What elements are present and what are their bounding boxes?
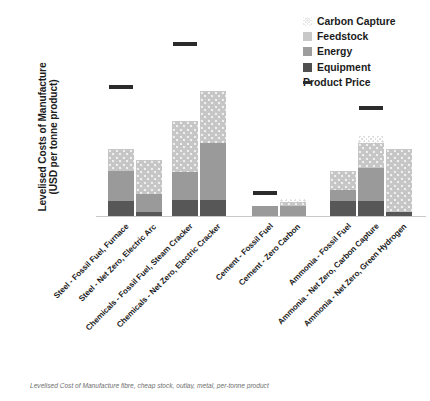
legend-label: Equipment <box>317 62 371 73</box>
bar-segment-feedstock <box>200 91 226 143</box>
bar-segment-energy <box>136 194 162 212</box>
y-axis-title-line-2: (USD per tonne product) <box>48 80 59 195</box>
legend-swatch-feedstock-icon <box>303 32 312 41</box>
bar-segment-equipment <box>358 201 384 216</box>
bar-segment-carbon-capture <box>358 136 384 142</box>
product-price-marker-steel <box>109 85 133 89</box>
bar-9[interactable] <box>386 149 412 216</box>
legend-label: Feedstock <box>317 31 368 42</box>
legend: Carbon CaptureFeedstockEnergyEquipmentPr… <box>303 14 429 90</box>
legend-item-capture[interactable]: Carbon Capture <box>303 14 429 29</box>
y-axis-title: Levelised Costs of Manufacture (USD per … <box>31 27 65 247</box>
bar-segment-energy <box>172 172 198 199</box>
bar-segment-equipment <box>172 200 198 216</box>
legend-label: Energy <box>317 46 352 57</box>
bar-segment-energy <box>358 168 384 201</box>
chart-container: Levelised Costs of Manufacture (USD per … <box>0 0 430 401</box>
product-price-marker-ammonia <box>359 106 383 110</box>
bar-segment-feedstock <box>330 171 356 190</box>
bar-segment-energy <box>200 143 226 200</box>
x-tick-label-9: Ammonia - Net Zero, Green Hydrogen <box>302 222 408 328</box>
bar-7[interactable] <box>330 171 356 216</box>
legend-item-price[interactable]: Product Price <box>303 75 429 90</box>
bar-segment-equipment <box>386 212 412 216</box>
legend-label: Carbon Capture <box>317 16 396 27</box>
bar-1[interactable] <box>108 149 134 216</box>
bar-segment-feedstock <box>108 149 134 171</box>
bar-6[interactable] <box>280 199 306 216</box>
x-axis-line <box>96 216 426 217</box>
legend-label: Product Price <box>303 77 371 88</box>
bar-segment-feedstock <box>358 143 384 168</box>
bar-segment-energy <box>252 206 278 216</box>
legend-item-energy[interactable]: Energy <box>303 44 429 59</box>
bar-segment-equipment <box>108 201 134 216</box>
bar-3[interactable] <box>172 121 198 216</box>
bar-segment-energy <box>280 206 306 216</box>
bar-segment-energy <box>330 190 356 201</box>
bar-8[interactable] <box>358 143 384 216</box>
bar-segment-equipment <box>330 201 356 216</box>
bar-segment-energy <box>108 171 134 201</box>
bar-segment-feedstock <box>172 121 198 172</box>
product-price-marker-cement <box>253 191 277 195</box>
bar-5[interactable] <box>252 206 278 216</box>
legend-swatch-energy-icon <box>303 47 312 56</box>
bar-2[interactable] <box>136 160 162 216</box>
bar-segment-equipment <box>200 200 226 216</box>
plot-area <box>100 22 320 216</box>
legend-swatch-capture-icon <box>303 17 312 26</box>
legend-swatch-price-icon <box>303 81 312 84</box>
figure-caption: Levelised Cost of Manufacture fibre, che… <box>30 382 420 389</box>
y-axis-title-line-1: Levelised Costs of Manufacture <box>37 63 48 212</box>
bar-segment-equipment <box>136 212 162 216</box>
legend-item-equipment[interactable]: Equipment <box>303 60 429 75</box>
legend-item-feedstock[interactable]: Feedstock <box>303 29 429 44</box>
bar-4[interactable] <box>200 91 226 216</box>
bar-segment-feedstock <box>386 149 412 212</box>
x-tick-label-4: Chemicals - Net Zero, Electric Cracker <box>115 222 222 329</box>
product-price-marker-chemicals <box>173 42 197 46</box>
bar-segment-feedstock <box>136 160 162 194</box>
legend-swatch-equipment-icon <box>303 63 312 72</box>
